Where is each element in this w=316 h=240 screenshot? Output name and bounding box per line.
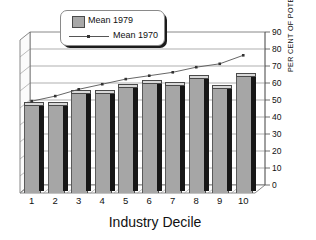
y-tick-label: 0 (272, 181, 288, 190)
x-axis-title: Industry Decile (40, 214, 270, 230)
x-tick-label: 2 (46, 196, 64, 206)
legend-item-mean-1970: Mean 1970 (61, 29, 164, 43)
line-marker (195, 66, 198, 69)
line-marker (124, 78, 127, 81)
x-tick-label: 4 (93, 196, 111, 206)
y-tick-label: 30 (272, 130, 288, 139)
x-tick-label: 7 (164, 196, 182, 206)
x-tick-label: 10 (234, 196, 252, 206)
line-marker (148, 74, 151, 77)
y-tick-label: 20 (272, 147, 288, 156)
legend-line-marker-icon (87, 35, 90, 38)
line-marker (54, 95, 57, 98)
chart-legend: Mean 1979 Mean 1970 (60, 10, 167, 48)
x-tick-label: 3 (70, 196, 88, 206)
y-axis-title: PER CENT OF POTENTIAL (286, 0, 295, 72)
legend-label-mean-1970: Mean 1970 (113, 30, 158, 41)
line-marker (30, 100, 33, 103)
y-tick-label: 10 (272, 164, 288, 173)
line-marker (242, 54, 245, 57)
y-tick-label: 40 (272, 113, 288, 122)
x-tick-label: 9 (211, 196, 229, 206)
x-tick-label: 1 (23, 196, 41, 206)
legend-item-mean-1979: Mean 1979 (61, 14, 164, 28)
line-marker (171, 71, 174, 74)
x-tick-label: 8 (187, 196, 205, 206)
legend-bar-swatch-icon (72, 16, 85, 28)
line-marker (77, 88, 80, 91)
x-tick-label: 6 (140, 196, 158, 206)
legend-box: Mean 1979 Mean 1970 (60, 10, 165, 46)
line-marker (101, 83, 104, 86)
legend-label-mean-1979: Mean 1979 (88, 15, 133, 26)
x-tick-label: 5 (117, 196, 135, 206)
y-tick-label: 60 (272, 79, 288, 88)
y-tick-label: 50 (272, 96, 288, 105)
chart-container: 0102030405060708090 12345678910 Industry… (0, 0, 316, 240)
line-marker (218, 63, 221, 66)
